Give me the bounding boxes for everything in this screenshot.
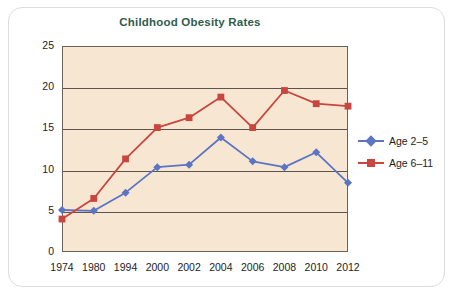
y-tick-label: 15 bbox=[20, 122, 54, 133]
x-tick-label: 2000 bbox=[146, 261, 169, 273]
y-tick-label: 5 bbox=[20, 205, 54, 216]
legend-label: Age 6–11 bbox=[384, 157, 433, 169]
chart-title: Childhood Obesity Rates bbox=[0, 16, 380, 28]
gridline bbox=[63, 171, 347, 172]
x-tick-label: 1980 bbox=[82, 261, 105, 273]
legend-item: Age 6–11 bbox=[358, 152, 450, 174]
y-tick-label: 10 bbox=[20, 164, 54, 175]
chart-figure: Childhood Obesity Rates Percent 05101520… bbox=[0, 0, 455, 295]
legend-label: Age 2–5 bbox=[384, 135, 428, 147]
x-tick-label: 1994 bbox=[114, 261, 137, 273]
legend-square-icon bbox=[367, 159, 375, 167]
legend-swatch bbox=[358, 135, 384, 147]
y-tick-label: 20 bbox=[20, 81, 54, 92]
gridline bbox=[63, 88, 347, 89]
y-tick-label: 25 bbox=[20, 40, 54, 51]
gridline bbox=[63, 129, 347, 130]
x-tick-label: 1974 bbox=[50, 261, 73, 273]
y-tick-label: 0 bbox=[20, 246, 54, 257]
chart-legend: Age 2–5Age 6–11 bbox=[358, 130, 450, 174]
x-tick-label: 2010 bbox=[305, 261, 328, 273]
legend-item: Age 2–5 bbox=[358, 130, 450, 152]
x-tick-label: 2004 bbox=[209, 261, 232, 273]
x-tick-label: 2006 bbox=[241, 261, 264, 273]
x-tick-label: 2002 bbox=[177, 261, 200, 273]
x-tick-label: 2008 bbox=[273, 261, 296, 273]
x-tick-label: 2012 bbox=[336, 261, 359, 273]
plot-area bbox=[62, 46, 348, 252]
legend-swatch bbox=[358, 157, 384, 169]
legend-diamond-icon bbox=[365, 135, 376, 146]
gridline bbox=[63, 212, 347, 213]
